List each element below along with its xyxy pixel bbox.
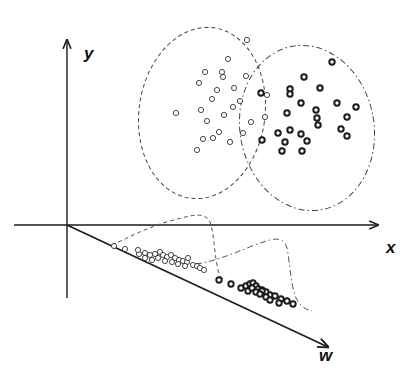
open-circle-point: [221, 112, 226, 117]
open-circle-point: [264, 92, 269, 97]
projected-open-point: [155, 255, 160, 260]
y-axis-label: y: [84, 45, 93, 62]
open-circle-point: [262, 114, 267, 119]
ring-circle-point: [282, 139, 287, 144]
ring-circle-point: [315, 122, 320, 127]
ring-circle-point: [279, 148, 284, 153]
ring-circle-point: [275, 130, 280, 135]
ring-circle-point: [258, 90, 263, 95]
projected-open-point: [135, 247, 140, 252]
class-a-points: [173, 37, 269, 152]
ring-circle-point: [344, 114, 349, 119]
projected-open-point: [149, 257, 154, 262]
ring-circle-point: [334, 100, 339, 105]
projected-open-point: [182, 263, 187, 268]
ring-circle-point: [301, 74, 306, 79]
projected-open-point: [185, 255, 190, 260]
open-circle-point: [200, 136, 205, 141]
class-b-projected-points: [216, 277, 295, 306]
open-circle-point: [196, 80, 201, 85]
projected-open-point: [142, 255, 147, 260]
projected-ring-point: [290, 301, 295, 306]
open-circle-point: [202, 69, 207, 74]
ring-circle-point: [313, 107, 318, 112]
open-circle-point: [231, 85, 236, 90]
open-circle-point: [225, 56, 230, 61]
ring-circle-point: [298, 100, 303, 105]
projected-open-point: [162, 258, 167, 263]
class-b-points: [258, 59, 358, 153]
open-circle-point: [227, 139, 232, 144]
ring-circle-point: [338, 126, 343, 131]
projected-open-point: [142, 250, 147, 255]
fisher-projection-diagram: [0, 0, 420, 380]
projected-open-point: [147, 252, 152, 257]
ring-circle-point: [304, 138, 309, 143]
ring-circle-point: [353, 104, 358, 109]
open-circle-point: [248, 119, 253, 124]
open-circle-point: [194, 147, 199, 152]
ring-circle-point: [329, 59, 334, 64]
open-circle-point: [173, 110, 178, 115]
open-circle-point: [204, 118, 209, 123]
ring-circle-point: [298, 131, 303, 136]
ring-circle-point: [344, 133, 349, 138]
ring-circle-point: [259, 137, 264, 142]
ring-circle-point: [287, 91, 292, 96]
projected-ring-point: [267, 297, 272, 302]
ring-circle-point: [287, 127, 292, 132]
projected-open-point: [122, 246, 127, 251]
projected-open-point: [175, 261, 180, 266]
open-circle-point: [198, 107, 203, 112]
open-circle-point: [214, 87, 219, 92]
open-circle-point: [237, 98, 242, 103]
open-circle-point: [220, 74, 225, 79]
w-axis-label: w: [319, 347, 332, 364]
open-circle-point: [244, 37, 249, 42]
class-b-density-curve: [196, 239, 312, 311]
projected-open-point: [201, 267, 206, 272]
open-circle-point: [243, 73, 248, 78]
ring-circle-point: [317, 85, 322, 90]
ring-circle-point: [284, 110, 289, 115]
projected-ring-point: [228, 281, 233, 286]
open-circle-point: [230, 104, 235, 109]
x-axis-label: x: [386, 239, 395, 256]
open-circle-point: [210, 135, 215, 140]
projected-ring-point: [284, 298, 289, 303]
open-circle-point: [240, 130, 245, 135]
w-axis: [67, 225, 328, 347]
projected-open-point: [169, 259, 174, 264]
class-b-boundary: [227, 35, 388, 222]
ring-circle-point: [314, 115, 319, 120]
projected-ring-point: [216, 277, 221, 282]
open-circle-point: [219, 69, 224, 74]
ring-circle-point: [299, 148, 304, 153]
class-a-boundary: [128, 19, 277, 207]
projected-ring-point: [257, 291, 262, 296]
projected-open-point: [111, 243, 116, 248]
projected-ring-point: [272, 293, 277, 298]
open-circle-point: [209, 96, 214, 101]
projected-ring-point: [276, 300, 281, 305]
open-circle-point: [216, 129, 221, 134]
